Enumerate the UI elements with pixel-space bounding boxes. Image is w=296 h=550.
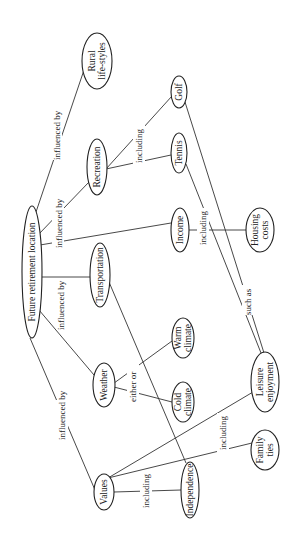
node-independence: Independence [181, 462, 199, 518]
edge-label-rural: influenced by [52, 110, 62, 160]
node-tennis: Tennis [171, 133, 187, 173]
node-family-ties: Family ties [251, 430, 279, 470]
node-label: Recreation [92, 146, 102, 187]
edge-label-transportation: influenced by [56, 280, 66, 330]
node-golf: Golf [171, 76, 187, 108]
node-label-line1: Leisure [255, 368, 265, 397]
node-values: Values [94, 474, 114, 510]
node-label-line2: costs [260, 220, 270, 239]
edge-transportation-independence [109, 282, 186, 463]
node-label: Income [175, 216, 185, 245]
node-label-line1: Rural [87, 50, 97, 71]
node-label: Future retirement location [27, 222, 37, 321]
node-income: Income [171, 208, 189, 252]
node-leisure-enjoyment: Leisure enjoyment [251, 352, 279, 412]
node-label-line2: life-styles [97, 42, 107, 80]
node-future-retirement-location: Future retirement location [22, 206, 42, 338]
node-recreation: Recreation [87, 139, 107, 195]
node-label: Tennis [174, 140, 184, 165]
node-label: Golf [174, 82, 184, 100]
node-label-line1: Warm [173, 326, 183, 350]
edge-weather-warm [110, 341, 172, 386]
edge-label-values: influenced by [57, 390, 67, 440]
node-label-line2: climate [183, 324, 193, 352]
node-label-line2: enjoyment [265, 362, 275, 402]
node-rural-life-styles: Rural life-styles [82, 33, 112, 89]
edge-weather-cold [110, 386, 172, 402]
node-cold-climate: Cold climate [172, 382, 194, 422]
node-weather: Weather [93, 363, 115, 407]
node-warm-climate: Warm climate [172, 318, 194, 358]
edge-label-recreation: influenced by [54, 198, 64, 248]
concept-map: influenced by influenced by influenced b… [0, 0, 296, 550]
node-housing-costs: Housing costs [246, 208, 274, 252]
edge-tennis-leisure-b [186, 164, 261, 353]
node-transportation: Transportation [90, 243, 110, 307]
node-label-line2: ties [265, 443, 275, 456]
node-label: Values [99, 479, 109, 505]
node-label-line1: Family [255, 436, 265, 463]
node-label: Transportation [95, 247, 105, 303]
edge-label-income-including: including [198, 211, 208, 245]
edge-label-golf-such-as: such as [243, 288, 253, 315]
node-label: Independence [185, 464, 195, 517]
node-label: Weather [99, 368, 109, 400]
node-label-line2: climate [183, 388, 193, 416]
edge-root-weather [39, 310, 94, 375]
node-label-line1: Housing [250, 214, 260, 246]
edge-label-values-including-leisure: including [218, 416, 228, 450]
edge-label-recreation-including: including [134, 129, 144, 163]
node-label-line1: Cold [173, 393, 183, 412]
edge-label-weather-either-or: either or [128, 372, 138, 402]
edge-label-values-including-independence: including [141, 474, 151, 508]
